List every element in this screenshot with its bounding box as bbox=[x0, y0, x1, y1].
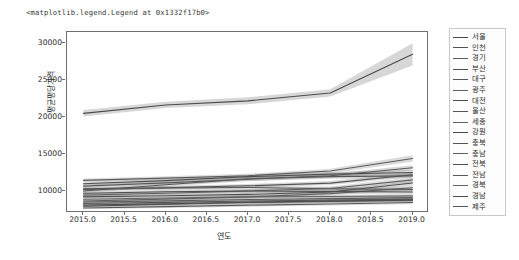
x-axis-tick-label: 2018.5 bbox=[357, 215, 384, 224]
legend-item-label: 인천 bbox=[472, 43, 486, 54]
legend-item[interactable]: 광주 bbox=[453, 85, 502, 96]
legend-line-swatch bbox=[453, 153, 468, 154]
legend-line-swatch bbox=[453, 90, 468, 91]
legend-item-label: 광주 bbox=[472, 85, 486, 96]
legend-item[interactable]: 울산 bbox=[453, 106, 502, 117]
plot-area bbox=[66, 31, 428, 212]
legend-item-label: 전북 bbox=[472, 159, 486, 170]
notebook-repr-output: <matplotlib.legend.Legend at 0x1332f17b0… bbox=[26, 8, 210, 17]
legend-line-swatch bbox=[453, 196, 468, 197]
legend-line-swatch bbox=[453, 132, 468, 133]
legend-item-label: 전남 bbox=[472, 170, 486, 181]
legend-item[interactable]: 충북 bbox=[453, 138, 502, 149]
legend-item[interactable]: 부산 bbox=[453, 64, 502, 75]
legend-item-label: 제주 bbox=[472, 202, 486, 213]
x-axis-title-text: 연도 bbox=[217, 230, 231, 241]
legend-line-swatch bbox=[453, 175, 468, 176]
x-axis-tick-label: 2016.5 bbox=[193, 215, 220, 224]
x-axis-tick-label: 2017.5 bbox=[275, 215, 302, 224]
x-axis-tick-label: 2019.0 bbox=[398, 215, 425, 224]
x-axis-tick-label: 2017.0 bbox=[234, 215, 261, 224]
x-axis-tick-label: 2015.0 bbox=[69, 215, 96, 224]
y-axis-tick-marks bbox=[0, 31, 66, 212]
legend-item[interactable]: 전북 bbox=[453, 159, 502, 170]
legend-item[interactable]: 인천 bbox=[453, 43, 502, 54]
figure-canvas: <matplotlib.legend.Legend at 0x1332f17b0… bbox=[0, 0, 519, 260]
legend-item-label: 대구 bbox=[472, 74, 486, 85]
x-axis-tick-label: 2018.0 bbox=[316, 215, 343, 224]
x-axis-title: 연도 bbox=[0, 230, 519, 241]
legend-item[interactable]: 충남 bbox=[453, 149, 502, 160]
y-axis-title: 평균평당가격 bbox=[45, 56, 56, 128]
legend-item[interactable]: 제주 bbox=[453, 202, 502, 213]
legend-line-swatch bbox=[453, 79, 468, 80]
legend-item[interactable]: 강원 bbox=[453, 127, 502, 138]
legend-item[interactable]: 경기 bbox=[453, 53, 502, 64]
legend-item[interactable]: 경남 bbox=[453, 191, 502, 202]
y-axis-tick-mark bbox=[62, 79, 65, 80]
y-axis-tick-mark bbox=[62, 190, 65, 191]
line-chart-svg bbox=[67, 32, 428, 212]
legend-line-swatch bbox=[453, 122, 468, 123]
legend-item-label: 경북 bbox=[472, 180, 486, 191]
legend-item-label: 충남 bbox=[472, 149, 486, 160]
legend-line-swatch bbox=[453, 58, 468, 59]
legend-line-swatch bbox=[453, 100, 468, 101]
legend-line-swatch bbox=[453, 143, 468, 144]
legend-item-label: 강원 bbox=[472, 127, 486, 138]
legend-item[interactable]: 대전 bbox=[453, 96, 502, 107]
legend-item-label: 세종 bbox=[472, 117, 486, 128]
x-axis-tick-label: 2015.5 bbox=[110, 215, 137, 224]
legend-box[interactable]: 서울인천경기부산대구광주대전울산세종강원충북충남전북전남경북경남제주 bbox=[449, 28, 506, 216]
confidence-band bbox=[83, 43, 412, 116]
legend-item[interactable]: 대구 bbox=[453, 74, 502, 85]
legend-item[interactable]: 서울 bbox=[453, 32, 502, 43]
legend-item-label: 대전 bbox=[472, 96, 486, 107]
legend-item[interactable]: 전남 bbox=[453, 170, 502, 181]
legend-line-swatch bbox=[453, 164, 468, 165]
legend-item-label: 경기 bbox=[472, 53, 486, 64]
legend-item[interactable]: 세종 bbox=[453, 117, 502, 128]
legend-item-label: 부산 bbox=[472, 64, 486, 75]
y-axis-tick-mark bbox=[62, 42, 65, 43]
legend-item[interactable]: 경북 bbox=[453, 180, 502, 191]
legend-line-swatch bbox=[453, 111, 468, 112]
y-axis-tick-mark bbox=[62, 153, 65, 154]
legend-line-swatch bbox=[453, 206, 468, 207]
legend-item-label: 충북 bbox=[472, 138, 486, 149]
legend-item-label: 서울 bbox=[472, 32, 486, 43]
x-axis-tick-label: 2016.0 bbox=[151, 215, 178, 224]
x-axis-tick-labels: 2015.02015.52016.02016.52017.02017.52018… bbox=[66, 215, 428, 229]
legend-line-swatch bbox=[453, 47, 468, 48]
legend-item-label: 울산 bbox=[472, 106, 486, 117]
legend-line-swatch bbox=[453, 69, 468, 70]
legend-item-label: 경남 bbox=[472, 191, 486, 202]
legend-line-swatch bbox=[453, 185, 468, 186]
legend-line-swatch bbox=[453, 37, 468, 38]
y-axis-tick-mark bbox=[62, 116, 65, 117]
